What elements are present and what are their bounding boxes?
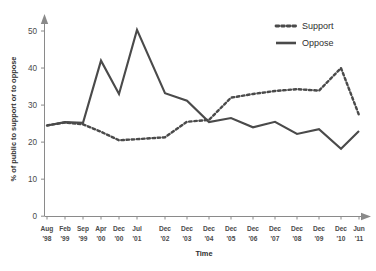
x-tick-label-month: Dec bbox=[225, 225, 237, 232]
x-tick-label-month: Aug bbox=[41, 225, 54, 233]
x-tick-label-month: Jul bbox=[132, 225, 142, 232]
y-tick-label: 10 bbox=[28, 175, 38, 184]
x-tick-label-year: '99 bbox=[79, 235, 88, 242]
x-tick-label-year: '98 bbox=[43, 235, 52, 242]
x-tick-label-year: '10 bbox=[337, 235, 346, 242]
y-axis-title: % of public to support or to oppose bbox=[9, 57, 18, 182]
x-tick-label-month: Sep bbox=[77, 225, 89, 233]
x-tick-label-year: '00 bbox=[97, 235, 106, 242]
x-tick-label-year: '99 bbox=[61, 235, 70, 242]
x-tick-label-month: Dec bbox=[181, 225, 193, 232]
x-tick-labels: Aug'98Feb'99Sep'99Apr'00Dec'00Jul'01Dec'… bbox=[41, 225, 365, 242]
line-chart-plot: 01020304050 Aug'98Feb'99Sep'99Apr'00Dec'… bbox=[0, 0, 376, 271]
y-tick-label: 0 bbox=[32, 212, 37, 221]
x-tick-label-month: Dec bbox=[247, 225, 259, 232]
y-tick-group: 01020304050 bbox=[28, 27, 45, 221]
legend-label-oppose: Oppose bbox=[302, 38, 334, 48]
y-tick-label: 40 bbox=[28, 64, 38, 73]
x-tick-label-month: Dec bbox=[291, 225, 303, 232]
x-tick-label-year: '09 bbox=[315, 235, 324, 242]
x-tick-label-year: '03 bbox=[183, 235, 192, 242]
x-tick-label-month: Feb bbox=[59, 225, 71, 232]
y-tick-label: 20 bbox=[28, 138, 38, 147]
x-tick-label-year: '01 bbox=[133, 235, 142, 242]
x-tick-label-month: Dec bbox=[113, 225, 125, 232]
x-tick-label-year: '11 bbox=[355, 235, 364, 242]
y-tick-label: 50 bbox=[28, 27, 38, 36]
x-tick-label-month: Dec bbox=[269, 225, 281, 232]
x-tick-label-year: '04 bbox=[205, 235, 214, 242]
legend-label-support: Support bbox=[302, 21, 334, 31]
x-axis-arrow-icon bbox=[361, 213, 371, 220]
x-tick-label-year: '02 bbox=[161, 235, 170, 242]
chart-container: 01020304050 Aug'98Feb'99Sep'99Apr'00Dec'… bbox=[0, 0, 376, 271]
y-axis-arrow-icon bbox=[41, 14, 48, 24]
x-tick-label-month: Dec bbox=[159, 225, 171, 232]
x-tick-label-month: Dec bbox=[335, 225, 347, 232]
x-tick-label-year: '07 bbox=[271, 235, 280, 242]
x-tick-label-year: '06 bbox=[249, 235, 258, 242]
x-tick-label-year: '00 bbox=[115, 235, 124, 242]
x-tick-label-month: Apr bbox=[95, 225, 107, 233]
x-tick-label-month: Dec bbox=[313, 225, 325, 232]
x-axis-title: Time bbox=[195, 249, 212, 258]
x-axis bbox=[45, 213, 372, 220]
series-line-support bbox=[47, 68, 359, 140]
y-tick-label: 30 bbox=[28, 101, 38, 110]
x-tick-label-month: Jun bbox=[353, 225, 365, 232]
x-tick-label-year: '05 bbox=[227, 235, 236, 242]
chart-legend: Support Oppose bbox=[276, 21, 334, 48]
x-tick-label-month: Dec bbox=[203, 225, 215, 232]
x-tick-label-year: '08 bbox=[293, 235, 302, 242]
y-axis bbox=[41, 14, 48, 216]
